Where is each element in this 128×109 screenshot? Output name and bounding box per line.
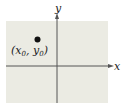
y-axis-label: y bbox=[55, 3, 61, 14]
paren-close: ) bbox=[44, 44, 48, 57]
point-label: (x0, y0) bbox=[11, 45, 48, 58]
point-marker bbox=[35, 37, 41, 43]
point-sep: , bbox=[26, 44, 33, 57]
x-axis-label: x bbox=[114, 61, 120, 72]
